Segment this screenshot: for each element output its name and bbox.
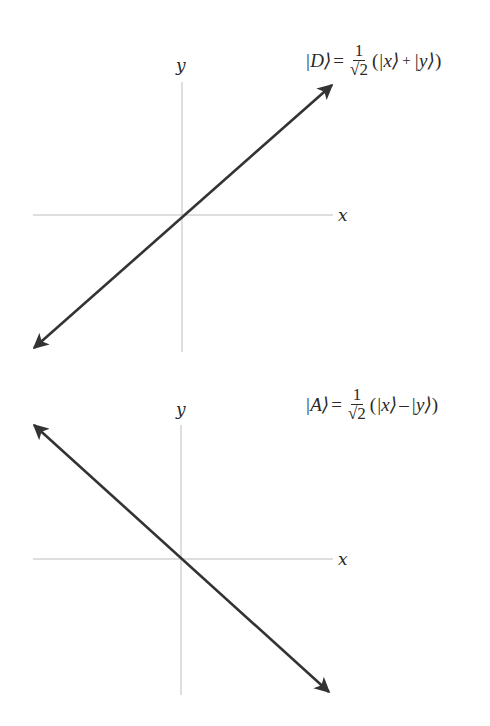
fraction-numerator: 1 [353,42,366,61]
fraction-numerator: 1 [351,386,364,405]
ket-x: |x⟩ [376,393,397,416]
ket-y: |y⟩ [411,393,432,416]
equals-sign: = [333,50,344,72]
y-axis-label-bottom: y [176,401,186,418]
diagram-canvas [0,0,490,726]
ket-A: |A⟩ [305,393,329,416]
fraction-one-over-root-two: 1 √2 [348,386,366,424]
ket-y: |y⟩ [414,49,435,72]
fraction-denominator: √2 [350,61,368,80]
plus-operator: + [402,52,410,69]
ket-D: |D⟩ [305,49,331,72]
equation-A: |A⟩ = 1 √2 ( |x⟩ – |y⟩ ) [305,386,438,424]
equals-sign: = [331,394,342,416]
x-axis-label-bottom: x [338,551,348,568]
minus-operator: – [399,394,409,416]
y-axis-label-top: y [176,57,186,74]
vector-D-arrow [34,85,332,348]
fraction-one-over-root-two: 1 √2 [350,42,368,80]
fraction-denominator: √2 [348,405,366,424]
ket-x: |x⟩ [378,49,399,72]
x-axis-label-top: x [338,207,348,224]
close-paren: ) [435,50,441,72]
equation-D: |D⟩ = 1 √2 ( |x⟩ + |y⟩ ) [305,42,441,80]
close-paren: ) [432,394,438,416]
